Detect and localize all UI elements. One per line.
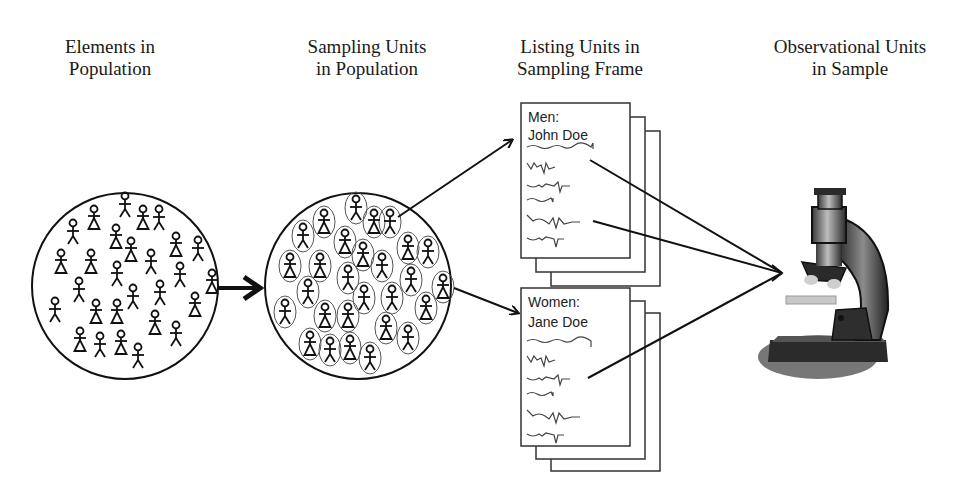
men-group-label: Men: [528, 109, 559, 125]
women-name: Jane Doe [528, 314, 588, 330]
women-list-pages: Women: Jane Doe [521, 288, 660, 471]
population-circle [32, 193, 218, 380]
microscope-icon [758, 188, 888, 379]
arrow-to-women-list [454, 288, 518, 313]
arrow-to-men-list [398, 140, 512, 217]
sampling-units-circle [265, 192, 454, 379]
women-group-label: Women: [528, 294, 580, 310]
sampling-diagram: Men: John Doe Women: Jane Doe [0, 0, 964, 498]
men-name: John Doe [528, 127, 588, 143]
thick-arrow-icon [218, 277, 260, 299]
men-list-pages: Men: John Doe [521, 103, 660, 286]
